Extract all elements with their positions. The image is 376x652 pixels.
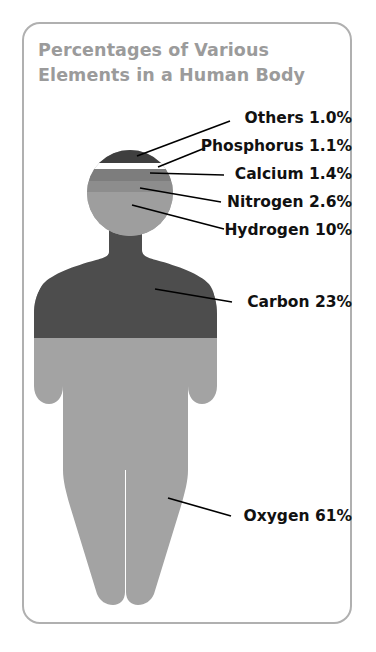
labels-layer: Others 1.0% Phosphorus 1.1% Calcium 1.4%… xyxy=(0,0,376,652)
label-calcium: Calcium 1.4% xyxy=(235,167,352,183)
label-carbon: Carbon 23% xyxy=(247,295,352,311)
label-hydrogen: Hydrogen 10% xyxy=(224,223,352,239)
infographic-root: Percentages of Various Elements in a Hum… xyxy=(0,0,376,652)
label-oxygen: Oxygen 61% xyxy=(244,509,352,525)
label-nitrogen: Nitrogen 2.6% xyxy=(227,195,352,211)
label-phosphorus: Phosphorus 1.1% xyxy=(201,139,352,155)
label-others: Others 1.0% xyxy=(245,111,352,127)
